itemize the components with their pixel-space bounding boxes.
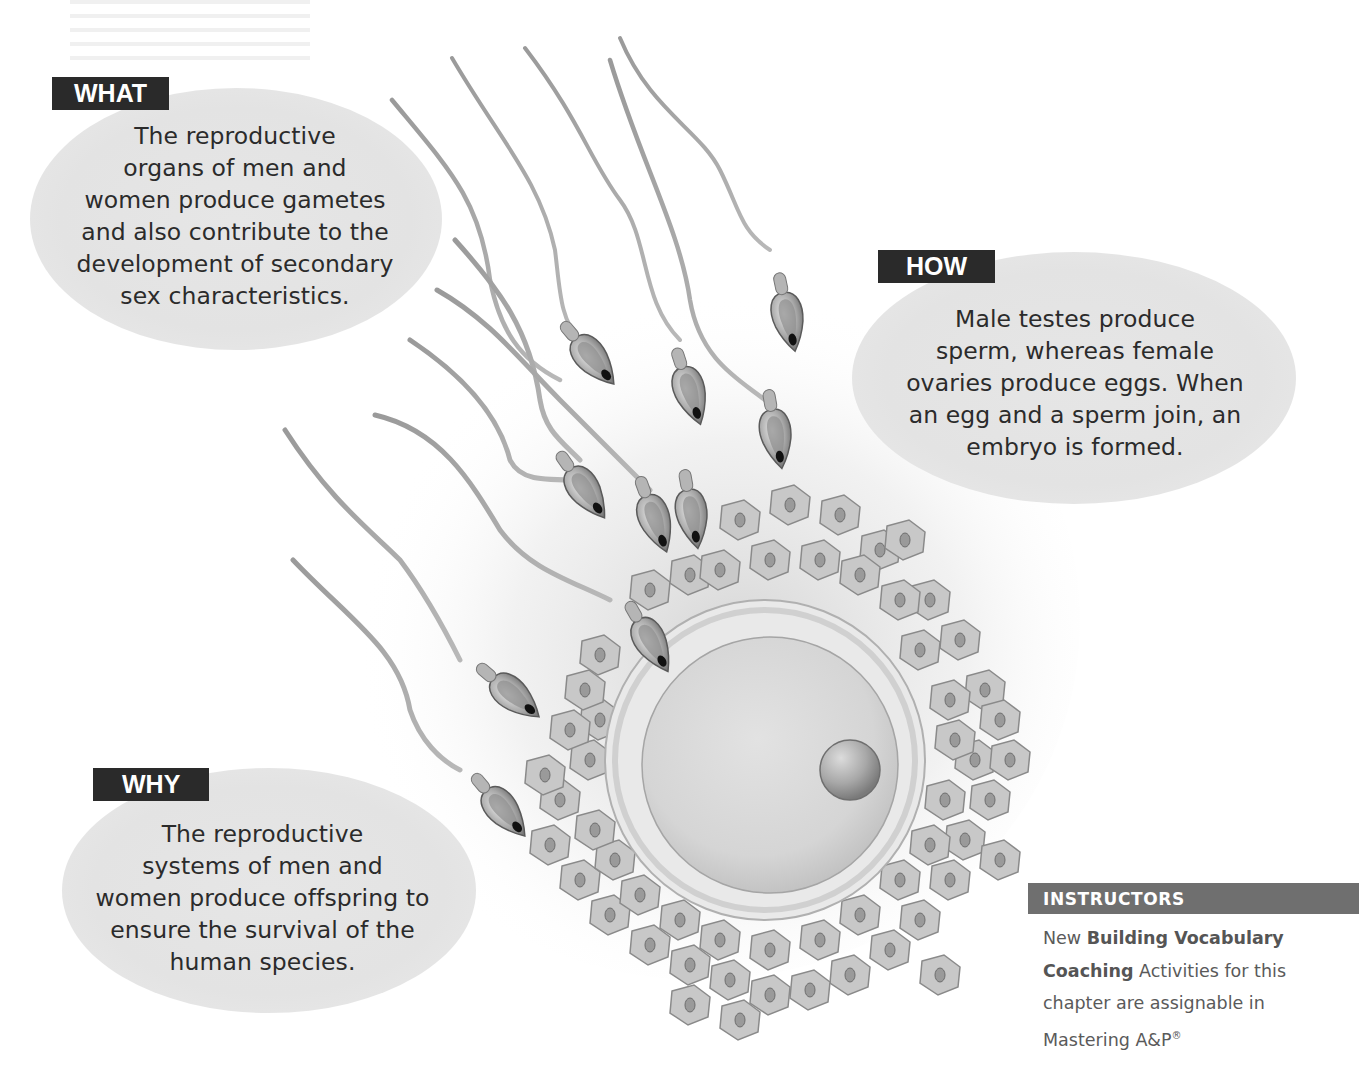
why-description: The reproductive systems of men and wome…	[75, 818, 450, 978]
what-description: The reproductive organs of men and women…	[45, 120, 425, 312]
instructors-note: New Building Vocabulary Coaching Activit…	[1043, 922, 1343, 1056]
why-label: WHY	[93, 768, 209, 801]
mastering-ap-text: Mastering A&P	[1043, 1029, 1172, 1049]
nucleus	[820, 740, 880, 800]
registered-mark: ®	[1172, 1030, 1182, 1041]
what-label: WHAT	[52, 77, 169, 110]
textbook-page: WHAT The reproductive organs of men and …	[0, 0, 1359, 1088]
instructors-title: INSTRUCTORS	[1043, 886, 1185, 912]
how-description: Male testes produce sperm, whereas femal…	[880, 303, 1270, 463]
building-vocabulary-link-text: Building Vocabulary	[1087, 928, 1284, 948]
how-label: HOW	[878, 250, 995, 283]
